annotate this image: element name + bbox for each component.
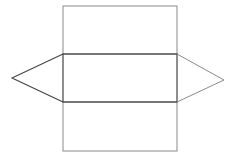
bottom-face bbox=[63, 102, 177, 151]
prism-net-diagram bbox=[0, 0, 235, 162]
left-face bbox=[12, 54, 63, 102]
middle-face bbox=[63, 54, 177, 102]
right-face bbox=[177, 54, 224, 102]
top-face bbox=[63, 6, 177, 54]
